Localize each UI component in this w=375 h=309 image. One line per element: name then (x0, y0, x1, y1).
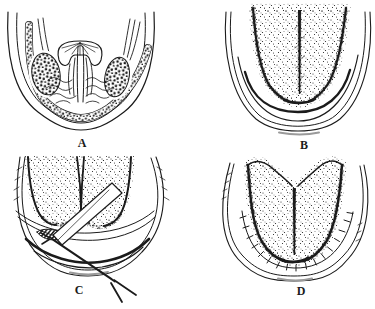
panel-a-cross-section-illustration (0, 0, 170, 152)
panel-b-label: B (293, 139, 315, 152)
panel-c-label: C (68, 284, 90, 297)
panel-c-dissection-illustration (0, 155, 185, 309)
tongue-left-lobe (28, 157, 81, 225)
panel-d-suture-illustration (190, 155, 375, 309)
panel-a-label: A (71, 137, 93, 150)
panel-b-incision-illustration (195, 0, 375, 152)
central-duct-structure (58, 41, 102, 102)
tongue-midline-groove (293, 188, 296, 255)
surgical-figure-four-panels: A B C D (0, 0, 375, 309)
mucosa-folds-right (123, 19, 140, 60)
panel-d-label: D (290, 285, 312, 298)
